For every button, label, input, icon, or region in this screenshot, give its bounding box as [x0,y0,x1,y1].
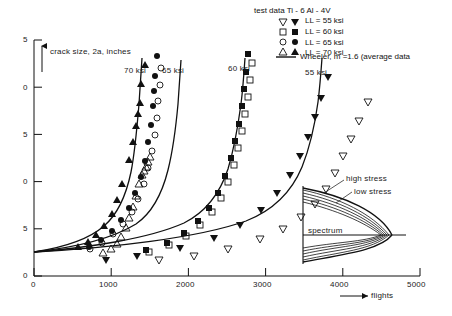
y-tick-label-0: 0 [23,271,28,280]
x-axis-title: flights [371,291,393,300]
points-70ksi-filled [74,61,149,250]
y-axis-title: crack size, 2a, inches [50,47,131,56]
inset-label-spectrum: spectrum [308,226,343,235]
y-tick-label-0-5: 5 [23,224,28,233]
y-tick-label-2-5: 5 [23,35,28,44]
points-55ksi-filled [102,74,332,264]
inset-label-high-stress: high stress [346,174,387,183]
curve-label-55ksi: 55 ksi [305,68,327,77]
x-tick-label-3000: 3000 [253,280,272,289]
x-tick-label-5000: 5000 [407,280,426,289]
inset-label-low-stress: low stress [354,187,392,196]
legend-label-wheeler: Wheeler, m =1.6 (average data [300,52,410,61]
leader-high-stress [324,180,344,193]
legend-markers [279,19,299,55]
y-tick-label-1-0: 0 [23,177,28,186]
curve-label-70ksi: 70 ksi [124,66,146,75]
legend-label-55ksi: LL = 55 ksi [305,16,344,25]
x-tick-label-4000: 4000 [330,280,349,289]
points-70ksi-open [99,153,154,256]
legend-label-65ksi: LL = 65 ksi [305,38,344,47]
x-tick-label-2000: 2000 [176,280,195,289]
x-tick-label-1000: 1000 [99,280,118,289]
y-axis-ticks [34,40,42,276]
y-tick-label-2-0: 0 [23,83,28,92]
curve-label-60ksi: 60 ksi [228,64,250,73]
legend-title: test data Ti - 6 Al - 4V [254,6,330,15]
chart-figure: 0 5 0 5 0 5 0 1000 2000 3000 4000 5000 c… [0,0,452,316]
x-axis-ticks [34,268,420,276]
wheeler-curves [34,58,322,252]
legend-label-60ksi: LL = 60 ksi [305,27,344,36]
curve-label-65ksi: 65 ksi [162,66,184,75]
axis-lines [34,40,420,276]
x-tick-label-0: 0 [31,280,36,289]
y-tick-label-1-5: 5 [23,130,28,139]
curve-55ksi [34,58,322,252]
